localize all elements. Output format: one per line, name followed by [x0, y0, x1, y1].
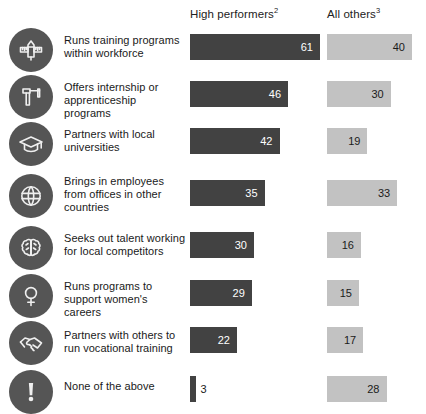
- graduation-cap-icon: [9, 122, 53, 166]
- exclamation-icon: [9, 370, 53, 414]
- bar-value-all-others: 16: [342, 239, 361, 251]
- bar-all-others: 33: [327, 180, 397, 206]
- column-header-all-others: All others3: [327, 8, 380, 20]
- bar-high-performers: 42: [190, 128, 280, 154]
- bar-all-others: 19: [327, 128, 367, 154]
- bar-value-all-others: 40: [393, 41, 412, 53]
- bar-high-performers: 30: [190, 232, 254, 258]
- bar-all-others: 40: [327, 34, 412, 60]
- bar-all-others: 16: [327, 232, 361, 258]
- bar-all-others: 30: [327, 81, 391, 107]
- chart-row: Partners with local universities4219: [0, 120, 426, 167]
- bar-high-performers: 46: [190, 81, 288, 107]
- column-header-all-others-label: All others: [327, 8, 376, 20]
- column-header-high-performers-superscript: 2: [274, 6, 278, 15]
- pencil-ruler-icon: [9, 28, 53, 72]
- brain-icon: [9, 226, 53, 270]
- bar-value-high-performers: 35: [245, 187, 264, 199]
- bar-value-all-others: 30: [372, 88, 391, 100]
- column-header-high-performers-label: High performers: [190, 8, 274, 20]
- row-label: Runs programs to support women's careers: [64, 280, 186, 320]
- caliper-icon: [9, 75, 53, 119]
- bar-high-performers: 29: [190, 280, 252, 306]
- globe-icon: [9, 174, 53, 218]
- chart-row: None of the above328: [0, 366, 426, 414]
- chart-row: Seeks out talent working for local compe…: [0, 224, 426, 272]
- bar-high-performers: 35: [190, 180, 265, 206]
- row-label: Partners with others to run vocational t…: [64, 329, 186, 355]
- column-header-all-others-superscript: 3: [376, 6, 380, 15]
- bar-all-others: 17: [327, 327, 363, 353]
- bar-value-all-others: 28: [367, 383, 386, 395]
- bar-value-all-others: 15: [340, 287, 359, 299]
- handshake-icon: [9, 321, 53, 365]
- bar-high-performers: 22: [190, 327, 237, 353]
- bar-value-high-performers: 30: [235, 239, 254, 251]
- row-label: Brings in employees from offices in othe…: [64, 175, 186, 215]
- horizontal-bar-chart: High performers2 All others3 Runs traini…: [0, 0, 426, 414]
- row-label: Seeks out talent working for local compe…: [64, 232, 186, 258]
- venus-symbol-icon: [9, 274, 53, 318]
- chart-row: Offers internship or apprenticeship prog…: [0, 73, 426, 120]
- row-label: None of the above: [64, 380, 186, 393]
- bar-value-high-performers: 42: [260, 135, 279, 147]
- bar-high-performers: 3: [190, 376, 196, 402]
- bar-value-high-performers: 46: [269, 88, 288, 100]
- row-label: Partners with local universities: [64, 128, 186, 154]
- chart-legend-header: High performers2 All others3: [0, 4, 426, 26]
- bar-value-all-others: 17: [344, 334, 363, 346]
- chart-rows: Runs training programs within workforce6…: [0, 26, 426, 414]
- column-header-high-performers: High performers2: [190, 8, 278, 20]
- bar-high-performers: 61: [190, 34, 320, 60]
- bar-value-high-performers: 3: [196, 383, 206, 395]
- bar-value-high-performers: 61: [301, 41, 320, 53]
- chart-row: Runs training programs within workforce6…: [0, 26, 426, 73]
- chart-row: Runs programs to support women's careers…: [0, 272, 426, 319]
- bar-value-all-others: 19: [348, 135, 367, 147]
- row-label: Runs training programs within workforce: [64, 34, 186, 60]
- bar-value-high-performers: 29: [233, 287, 252, 299]
- bar-value-all-others: 33: [378, 187, 397, 199]
- bar-all-others: 28: [327, 376, 387, 402]
- bar-all-others: 15: [327, 280, 359, 306]
- bar-value-high-performers: 22: [218, 334, 237, 346]
- chart-row: Partners with others to run vocational t…: [0, 319, 426, 366]
- row-label: Offers internship or apprenticeship prog…: [64, 81, 186, 121]
- chart-row: Brings in employees from offices in othe…: [0, 167, 426, 224]
